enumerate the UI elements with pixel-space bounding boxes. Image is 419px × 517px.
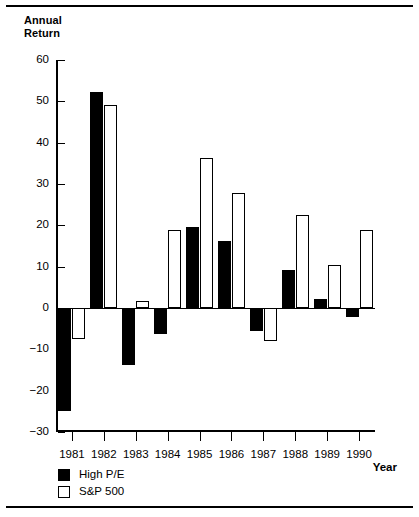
- x-axis-title: Year: [373, 462, 397, 474]
- legend-label: S&P 500: [79, 486, 124, 498]
- bar-s-p-500-1986: [232, 193, 245, 308]
- bar-s-p-500-1981: [72, 308, 85, 339]
- x-tick-label: 1985: [187, 449, 213, 461]
- x-tick-mark: [231, 432, 232, 441]
- bar-high-p-e-1986: [218, 241, 231, 308]
- x-tick-label: 1983: [123, 449, 149, 461]
- y-tick-label: 50: [36, 96, 49, 108]
- x-tick-label: 1986: [219, 449, 245, 461]
- y-tick-mark: [58, 267, 65, 268]
- x-tick-mark: [295, 432, 296, 441]
- x-tick-mark: [263, 432, 264, 441]
- bar-high-p-e-1990: [346, 308, 359, 317]
- y-tick-mark: [58, 101, 65, 102]
- x-tick-mark: [168, 432, 169, 441]
- x-tick-mark: [200, 432, 201, 441]
- y-tick-label: 20: [36, 220, 49, 232]
- legend-swatch-icon: [58, 469, 70, 481]
- bar-high-p-e-1988: [282, 270, 295, 308]
- bottom-rule: [6, 506, 413, 508]
- y-tick-label: 30: [36, 178, 49, 190]
- legend-swatch-icon: [58, 486, 70, 498]
- bar-high-p-e-1987: [250, 308, 263, 331]
- y-tick-mark: [58, 60, 65, 61]
- y-tick-label: −30: [29, 426, 49, 438]
- bar-s-p-500-1989: [328, 265, 341, 308]
- legend-item: S&P 500: [58, 483, 124, 500]
- y-tick-label: 60: [36, 54, 49, 66]
- x-tick-mark: [104, 432, 105, 441]
- y-tick-mark: [58, 184, 65, 185]
- bar-s-p-500-1982: [104, 105, 117, 308]
- bar-s-p-500-1983: [136, 301, 149, 308]
- bar-s-p-500-1990: [360, 230, 373, 308]
- y-tick-mark: [58, 432, 65, 433]
- bar-s-p-500-1987: [264, 308, 277, 341]
- y-tick-label: 40: [36, 137, 49, 149]
- x-tick-mark: [136, 432, 137, 441]
- x-tick-label: 1990: [346, 449, 372, 461]
- y-tick-mark: [58, 225, 65, 226]
- chart-legend: High P/ES&P 500: [58, 466, 124, 500]
- y-axis-title: Annual Return: [24, 14, 62, 40]
- bar-s-p-500-1984: [168, 230, 181, 308]
- y-tick-label: 0: [43, 302, 49, 314]
- plot-area: −30−20−100102030405060 19811982198319841…: [56, 60, 375, 432]
- y-tick-label: −10: [29, 344, 49, 356]
- x-tick-label: 1987: [251, 449, 277, 461]
- bar-high-p-e-1981: [58, 308, 71, 411]
- bar-s-p-500-1985: [200, 158, 213, 308]
- bar-high-p-e-1989: [314, 299, 327, 308]
- x-tick-label: 1984: [155, 449, 181, 461]
- chart-figure: Annual Return −30−20−100102030405060 198…: [0, 0, 419, 517]
- y-tick-label: −20: [29, 385, 49, 397]
- x-tick-label: 1981: [59, 449, 85, 461]
- legend-item: High P/E: [58, 466, 124, 483]
- x-tick-label: 1989: [314, 449, 340, 461]
- x-tick-mark: [359, 432, 360, 441]
- bar-s-p-500-1988: [296, 215, 309, 308]
- x-tick-label: 1982: [91, 449, 117, 461]
- y-tick-mark: [58, 143, 65, 144]
- x-tick-mark: [327, 432, 328, 441]
- bar-high-p-e-1984: [154, 308, 167, 334]
- y-tick-label: 10: [36, 261, 49, 273]
- x-tick-label: 1988: [282, 449, 308, 461]
- zero-reference-line: [56, 308, 375, 309]
- top-rule: [6, 5, 413, 7]
- bar-high-p-e-1985: [186, 227, 199, 308]
- x-tick-mark: [72, 432, 73, 441]
- legend-label: High P/E: [79, 469, 124, 481]
- bar-high-p-e-1983: [122, 308, 135, 365]
- bar-high-p-e-1982: [90, 92, 103, 308]
